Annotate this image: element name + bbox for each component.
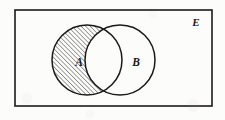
venn-diagram-figure: A B E bbox=[0, 0, 225, 120]
set-label-a: A bbox=[74, 56, 83, 68]
venn-diagram-canvas: A B E bbox=[0, 0, 225, 120]
universe-label-e: E bbox=[191, 16, 199, 28]
shaded-region-a-minus-b bbox=[0, 0, 225, 120]
set-label-b: B bbox=[131, 56, 140, 68]
